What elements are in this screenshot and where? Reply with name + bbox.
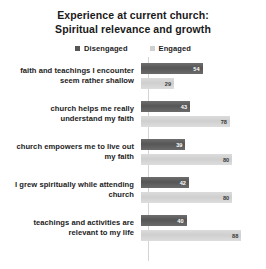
bar-pair: 54 29 [141, 57, 259, 95]
bar-pair: 39 80 [141, 133, 259, 171]
bar-value-label: 29 [165, 81, 171, 87]
bar-value-label: 40 [177, 218, 183, 224]
bar-value-label: 88 [232, 233, 238, 239]
legend-item-engaged[interactable]: Engaged [150, 44, 191, 53]
bar-value-label: 42 [180, 180, 186, 186]
chart-title-line-1: Experience at current church: [0, 8, 266, 22]
bar-group: church empowers me to live out my faith … [0, 133, 266, 171]
bar-value-label: 80 [223, 195, 229, 201]
chart-title-line-2: Spiritual relevance and growth [0, 22, 266, 36]
bar-value-label: 78 [221, 119, 227, 125]
bar-value-label: 43 [181, 104, 187, 110]
bar-engaged[interactable]: 78 [141, 116, 230, 127]
bar-value-label: 39 [176, 142, 182, 148]
bar-disengaged[interactable]: 39 [141, 139, 185, 150]
category-label-line: teachings and activities are [0, 218, 134, 228]
category-label: church empowers me to live out my faith [0, 142, 141, 162]
category-label: faith and teachings I encounter seem rat… [0, 66, 141, 86]
legend-label-disengaged: Disengaged [84, 44, 128, 53]
bar-disengaged[interactable]: 43 [141, 101, 190, 112]
category-label-line: church empowers me to live out [0, 142, 134, 152]
bar-group: church helps me really understand my fai… [0, 95, 266, 133]
bar-pair: 40 88 [141, 209, 259, 247]
category-label-line: I grew spiritually while attending [0, 180, 134, 190]
bar-engaged[interactable]: 80 [141, 154, 232, 165]
category-label-line: faith and teachings I encounter [0, 66, 134, 76]
bar-group: teachings and activities are relevant to… [0, 209, 266, 247]
bar-pair: 42 80 [141, 171, 259, 209]
bar-value-label: 54 [193, 66, 199, 72]
chart-legend: Disengaged Engaged [0, 44, 266, 53]
legend-swatch-engaged [150, 46, 155, 51]
bar-disengaged[interactable]: 40 [141, 215, 187, 226]
category-label-line: seem rather shallow [0, 76, 134, 86]
category-label-line: relevant to my life [0, 228, 134, 238]
bar-group: faith and teachings I encounter seem rat… [0, 57, 266, 95]
bar-disengaged[interactable]: 54 [141, 63, 203, 74]
category-label: teachings and activities are relevant to… [0, 218, 141, 238]
legend-item-disengaged[interactable]: Disengaged [75, 44, 128, 53]
bar-value-label: 80 [223, 157, 229, 163]
chart-container: Experience at current church: Spiritual … [0, 0, 266, 269]
legend-swatch-disengaged [75, 46, 80, 51]
category-label-line: understand my faith [0, 114, 134, 124]
bar-disengaged[interactable]: 42 [141, 177, 189, 188]
bar-pair: 43 78 [141, 95, 259, 133]
bar-group: I grew spiritually while attending churc… [0, 171, 266, 209]
category-label-line: church [0, 190, 134, 200]
chart-title: Experience at current church: Spiritual … [0, 0, 266, 36]
bar-engaged[interactable]: 29 [141, 78, 174, 89]
category-label: I grew spiritually while attending churc… [0, 180, 141, 200]
category-label-line: my faith [0, 152, 134, 162]
category-label-line: church helps me really [0, 104, 134, 114]
category-label: church helps me really understand my fai… [0, 104, 141, 124]
legend-label-engaged: Engaged [159, 44, 191, 53]
plot-area: faith and teachings I encounter seem rat… [0, 57, 266, 265]
bar-engaged[interactable]: 80 [141, 192, 232, 203]
bar-engaged[interactable]: 88 [141, 230, 241, 241]
